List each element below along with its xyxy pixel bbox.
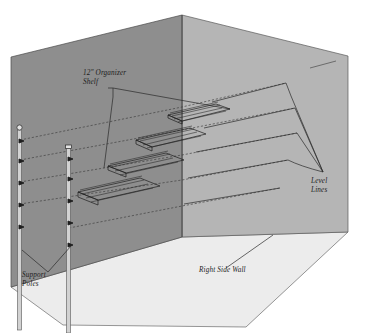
label-level-lines-line1: Level	[310, 177, 327, 185]
isometric-closet-diagram: 12" Organizer Shelf Level Lines Support …	[0, 0, 365, 333]
label-support-poles-line1: Support	[22, 271, 47, 279]
label-right-side-wall: Right Side Wall	[198, 266, 246, 274]
pole-right-cap-icon	[66, 145, 72, 149]
label-organizer-shelf-line2: Shelf	[83, 78, 99, 86]
diagram-canvas: 12" Organizer Shelf Level Lines Support …	[0, 0, 365, 333]
label-organizer-shelf-line1: 12" Organizer	[83, 69, 126, 77]
pole-right-body	[67, 148, 71, 333]
label-level-lines-line2: Lines	[310, 186, 327, 194]
room-shell	[11, 15, 348, 327]
pole-left-cap-icon	[17, 125, 22, 130]
right-side-wall-surface	[182, 15, 348, 237]
label-support-poles-line2: Poles	[21, 280, 39, 288]
